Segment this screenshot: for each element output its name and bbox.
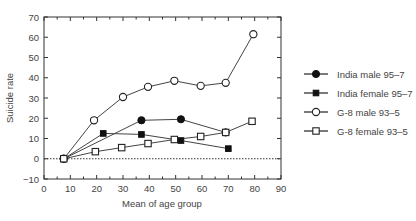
y-tick-label: 0 xyxy=(34,153,39,164)
y-tick-label: 50 xyxy=(28,52,39,63)
x-tick-label: 30 xyxy=(118,183,129,194)
legend-item: India female 95–7 xyxy=(304,88,413,99)
data-point xyxy=(145,140,151,146)
data-point xyxy=(197,133,203,139)
x-tick-label: 60 xyxy=(197,183,208,194)
x-tick-label: 20 xyxy=(91,183,102,194)
data-point xyxy=(226,146,232,152)
y-tick-label: 70 xyxy=(28,12,39,23)
legend-item: India male 95–7 xyxy=(304,69,405,80)
data-point xyxy=(197,82,204,89)
plot-frame xyxy=(44,17,281,179)
data-point xyxy=(222,79,229,86)
series-lines xyxy=(64,34,254,159)
legend-marker xyxy=(312,108,319,115)
data-point xyxy=(118,144,124,150)
x-tick-label: 0 xyxy=(41,183,46,194)
y-tick-label: 40 xyxy=(28,72,39,83)
y-tick-label: 30 xyxy=(28,93,39,104)
data-point xyxy=(61,156,67,162)
data-point xyxy=(92,148,98,154)
data-point xyxy=(138,117,145,124)
plot-border xyxy=(44,17,281,179)
y-axis-title: Suicide rate xyxy=(4,73,15,123)
data-point xyxy=(171,77,178,84)
legend: India male 95–7India female 95–7G-8 male… xyxy=(304,69,413,137)
data-point xyxy=(139,132,145,138)
legend-marker xyxy=(313,128,319,134)
data-point xyxy=(249,118,255,124)
x-tick-label: 40 xyxy=(144,183,155,194)
legend-item: G-8 male 93–5 xyxy=(304,107,400,118)
data-point xyxy=(119,93,126,100)
data-point xyxy=(178,138,184,144)
legend-label: G-8 female 93–5 xyxy=(337,126,408,137)
data-point xyxy=(223,129,229,135)
data-point xyxy=(100,131,106,137)
legend-marker xyxy=(312,70,319,77)
data-point xyxy=(90,117,97,124)
data-point xyxy=(171,136,177,142)
data-point xyxy=(177,116,184,123)
y-tick-label: 20 xyxy=(28,113,39,124)
legend-label: India female 95–7 xyxy=(337,88,413,99)
x-tick-label: 10 xyxy=(65,183,76,194)
data-point xyxy=(144,83,151,90)
legend-label: India male 95–7 xyxy=(337,69,405,80)
x-tick-label: 80 xyxy=(249,183,260,194)
line-chart: 0102030405060708090 −10010203040506070 M… xyxy=(0,0,416,221)
x-tick-label: 50 xyxy=(170,183,181,194)
x-axis-title: Mean of age group xyxy=(122,198,202,209)
y-tick-label: 60 xyxy=(28,32,39,43)
x-axis-ticks: 0102030405060708090 xyxy=(41,17,286,194)
x-tick-label: 90 xyxy=(276,183,287,194)
data-point xyxy=(250,31,257,38)
y-tick-label: 10 xyxy=(28,133,39,144)
legend-item: G-8 female 93–5 xyxy=(304,126,408,137)
y-tick-label: −10 xyxy=(23,174,39,185)
x-tick-label: 70 xyxy=(223,183,234,194)
legend-label: G-8 male 93–5 xyxy=(337,107,400,118)
legend-marker xyxy=(313,90,319,96)
